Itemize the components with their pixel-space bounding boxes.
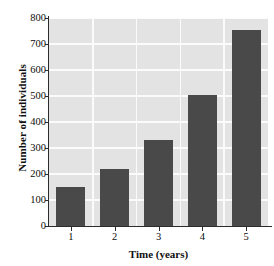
x-axis-tick-label: 1 xyxy=(56,232,86,243)
x-axis-tick-mark xyxy=(246,227,247,231)
y-axis-tick-mark xyxy=(45,148,49,149)
bar-chart-figure: Number of individuals 010020030040050060… xyxy=(0,0,274,266)
x-axis-tick-mark xyxy=(159,227,160,231)
y-axis-tick-mark xyxy=(45,226,49,227)
y-axis-tick-mark xyxy=(45,122,49,123)
x-axis-tick-label: 5 xyxy=(231,232,261,243)
y-axis-tick-mark xyxy=(45,44,49,45)
y-axis-tick-label: 0 xyxy=(20,221,46,232)
y-axis-tick-label: 600 xyxy=(20,65,46,76)
y-axis-tick-label: 400 xyxy=(20,117,46,128)
plot-area xyxy=(49,18,268,226)
bar xyxy=(144,140,173,226)
y-axis-tick-label: 100 xyxy=(20,195,46,206)
y-axis-tick-mark xyxy=(45,18,49,19)
y-axis-tick-label: 200 xyxy=(20,169,46,180)
x-axis-tick-label-group: 12345 xyxy=(49,232,268,246)
bar xyxy=(56,187,85,226)
gridline-horizontal xyxy=(49,18,268,19)
bar xyxy=(100,169,129,226)
x-axis-tick-mark xyxy=(71,227,72,231)
y-axis-tick-label: 700 xyxy=(20,39,46,50)
y-axis-tick-label: 800 xyxy=(20,13,46,24)
y-axis-tick-label: 500 xyxy=(20,91,46,102)
x-axis-tick-mark xyxy=(115,227,116,231)
x-axis-tick-label: 4 xyxy=(187,232,217,243)
bar xyxy=(232,30,261,226)
gridline-vertical xyxy=(136,18,138,226)
y-axis-tick-mark xyxy=(45,200,49,201)
y-axis-tick-mark xyxy=(45,96,49,97)
x-axis-tick-label: 2 xyxy=(100,232,130,243)
y-axis-tick-mark xyxy=(45,174,49,175)
bar xyxy=(188,95,217,226)
x-axis-title: Time (years) xyxy=(49,248,268,260)
x-axis-tick-label: 3 xyxy=(144,232,174,243)
y-axis-tick-label: 300 xyxy=(20,143,46,154)
gridline-vertical xyxy=(180,18,182,226)
x-axis-tick-mark xyxy=(202,227,203,231)
gridline-vertical xyxy=(223,18,225,226)
y-axis-tick-mark xyxy=(45,70,49,71)
gridline-vertical xyxy=(92,18,94,226)
y-axis-tick-label-group: 0100200300400500600700800 xyxy=(20,18,46,226)
